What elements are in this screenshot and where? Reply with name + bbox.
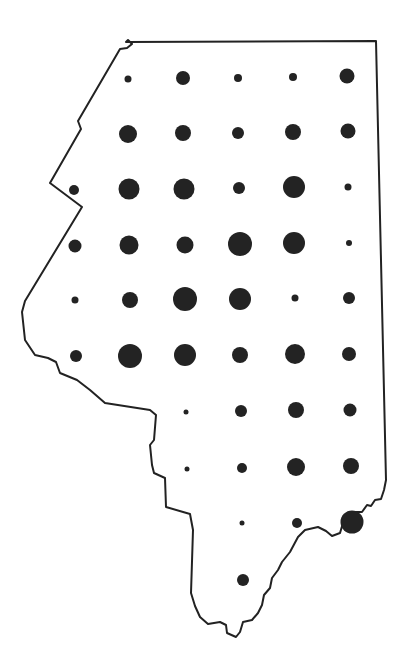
data-dot xyxy=(232,127,244,139)
data-dot xyxy=(233,182,245,194)
data-dot xyxy=(287,458,305,476)
data-dot xyxy=(342,347,356,361)
data-dot xyxy=(174,179,195,200)
data-dot xyxy=(345,184,352,191)
data-dot xyxy=(119,179,140,200)
data-dot xyxy=(237,574,249,586)
data-dot xyxy=(343,292,355,304)
data-dot xyxy=(288,402,304,418)
data-dot xyxy=(344,404,357,417)
dot-density-map xyxy=(0,0,402,669)
data-dot xyxy=(185,467,190,472)
data-dot xyxy=(235,405,247,417)
data-dot xyxy=(118,344,142,368)
data-dot xyxy=(119,125,137,143)
data-dot xyxy=(173,287,197,311)
data-dot xyxy=(346,240,352,246)
data-dot xyxy=(69,240,82,253)
data-dot xyxy=(69,185,79,195)
data-dot xyxy=(285,344,305,364)
data-dot xyxy=(285,124,301,140)
data-dot xyxy=(292,518,302,528)
data-dot xyxy=(340,69,355,84)
data-dot xyxy=(292,295,299,302)
data-dot xyxy=(122,292,138,308)
data-dot xyxy=(70,350,82,362)
data-dot xyxy=(174,344,196,366)
data-dot xyxy=(341,511,364,534)
data-dot xyxy=(228,232,252,256)
data-dot xyxy=(120,236,139,255)
data-dot xyxy=(72,297,79,304)
data-dot xyxy=(184,410,189,415)
data-dot xyxy=(343,458,359,474)
data-dot xyxy=(283,176,305,198)
data-dot xyxy=(283,232,305,254)
data-dot xyxy=(240,521,245,526)
data-dot xyxy=(229,288,251,310)
data-dot xyxy=(176,71,190,85)
data-dot xyxy=(341,124,356,139)
data-dot xyxy=(125,76,132,83)
data-dot xyxy=(289,73,297,81)
data-dot xyxy=(177,237,194,254)
data-dot xyxy=(175,125,191,141)
data-dot xyxy=(237,463,247,473)
data-dot xyxy=(234,74,242,82)
data-dot xyxy=(232,347,248,363)
